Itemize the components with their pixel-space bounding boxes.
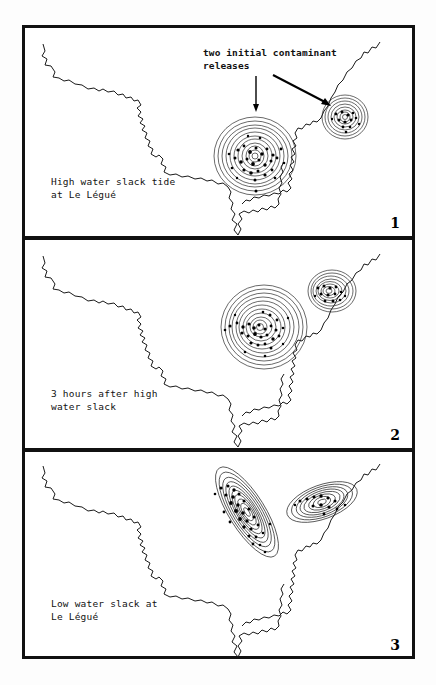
plume-small bbox=[322, 95, 368, 139]
plume-large-particles bbox=[214, 485, 272, 554]
plume-large bbox=[214, 117, 296, 195]
figure-root: two initial contaminant releases High wa… bbox=[0, 0, 436, 685]
annotation-arrows bbox=[253, 75, 331, 112]
panel-3-caption: Low water slack at Le Légué bbox=[51, 597, 158, 623]
coastline-east bbox=[242, 254, 380, 416]
figure-frame: two initial contaminant releases High wa… bbox=[22, 25, 415, 659]
river-channel bbox=[238, 584, 284, 657]
plume-small bbox=[281, 473, 362, 530]
annotation-label: two initial contaminant releases bbox=[203, 46, 337, 72]
panel-2-number: 2 bbox=[390, 427, 400, 443]
panel-2-caption: 3 hours after high water slack bbox=[51, 387, 158, 413]
panel-3-map bbox=[25, 452, 412, 659]
plume-large bbox=[204, 458, 290, 565]
panel-2: 3 hours after high water slack 2 bbox=[25, 240, 412, 449]
river-channel bbox=[238, 374, 284, 447]
coastline-west bbox=[42, 256, 238, 447]
panel-2-map bbox=[25, 240, 412, 449]
panel-1: two initial contaminant releases High wa… bbox=[25, 28, 412, 237]
panel-3-number: 3 bbox=[390, 637, 400, 653]
arrow-to-small-plume bbox=[273, 75, 325, 102]
river-channel bbox=[238, 162, 284, 235]
coastline-west bbox=[42, 466, 238, 657]
plume-large bbox=[221, 285, 307, 369]
plume-small bbox=[308, 270, 356, 312]
coastline-west bbox=[42, 44, 238, 235]
panel-1-number: 1 bbox=[390, 215, 400, 231]
panel-1-caption: High water slack tide at Le Légué bbox=[51, 175, 175, 201]
panel-3: Low water slack at Le Légué 3 bbox=[25, 452, 412, 659]
